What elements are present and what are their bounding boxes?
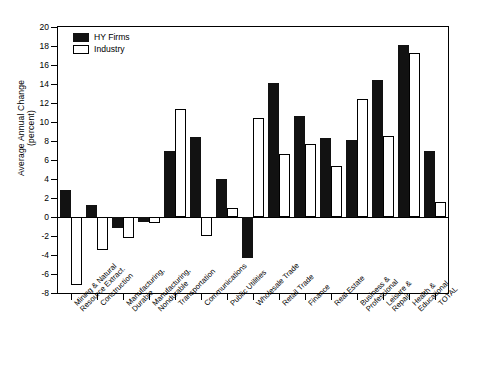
bar-hy-firms	[294, 116, 305, 217]
y-axis-tick	[51, 217, 57, 218]
y-axis-tick	[51, 179, 57, 180]
x-axis-tick	[201, 294, 202, 300]
x-axis-tick	[305, 294, 306, 300]
y-axis-tick-label: 10	[3, 118, 49, 127]
legend-swatch-hy-firms	[73, 33, 89, 42]
y-axis-tick-label: 2	[3, 194, 49, 203]
y-axis-tick-label: 12	[3, 99, 49, 108]
bar-industry	[97, 217, 108, 250]
x-axis-tick	[123, 294, 124, 300]
x-axis-tick	[383, 294, 384, 300]
bar-hy-firms	[216, 179, 227, 217]
legend-item-hy-firms: HY Firms	[73, 32, 130, 43]
bar-industry	[331, 166, 342, 217]
bar-hy-firms	[320, 138, 331, 217]
y-axis-tick	[51, 46, 57, 47]
y-axis-tick	[51, 122, 57, 123]
x-axis-tick	[331, 294, 332, 300]
y-axis-tick	[51, 84, 57, 85]
y-axis-tick-label: 16	[3, 61, 49, 70]
bar-hy-firms	[268, 83, 279, 217]
bar-chart: Average Annual Change (percent) 20181614…	[0, 0, 478, 370]
y-axis-tick	[51, 274, 57, 275]
y-axis-tick-label: 6	[3, 156, 49, 165]
bar-hy-firms	[60, 190, 71, 217]
x-axis-tick	[227, 294, 228, 300]
y-axis-tick-label: 14	[3, 80, 49, 89]
bar-industry	[435, 202, 446, 217]
y-axis-tick	[51, 141, 57, 142]
bar-industry	[279, 154, 290, 217]
legend-label-hy-firms: HY Firms	[94, 32, 130, 43]
y-axis-tick	[51, 160, 57, 161]
y-axis-tick-label: 8	[3, 137, 49, 146]
y-axis-tick-label: 4	[3, 175, 49, 184]
x-axis-tick	[409, 294, 410, 300]
y-axis-tick	[51, 198, 57, 199]
y-axis-tick-label: -2	[3, 232, 49, 241]
y-axis-tick	[51, 27, 57, 28]
y-axis-tick-label: 18	[3, 42, 49, 51]
y-axis-tick	[51, 103, 57, 104]
bar-hy-firms	[424, 151, 435, 217]
bar-industry	[175, 109, 186, 217]
bar-industry	[305, 144, 316, 217]
bar-hy-firms	[372, 80, 383, 217]
bar-industry	[123, 217, 134, 238]
x-axis-tick	[279, 294, 280, 300]
x-axis-tick	[71, 294, 72, 300]
x-axis-tick	[149, 294, 150, 300]
y-axis-tick-label: -6	[3, 270, 49, 279]
x-axis-tick	[357, 294, 358, 300]
y-axis-labels: 20181614121086420-2-4-6-8	[0, 0, 49, 370]
bar-industry	[409, 53, 420, 217]
bar-industry	[253, 118, 264, 217]
bar-hy-firms	[164, 151, 175, 218]
legend-swatch-industry	[73, 45, 89, 54]
bar-hy-firms	[346, 140, 357, 217]
x-axis-tick	[253, 294, 254, 300]
x-axis-tick	[97, 294, 98, 300]
bar-industry	[227, 208, 238, 217]
x-axis-tick	[435, 294, 436, 300]
bar-industry	[383, 136, 394, 217]
bar-hy-firms	[190, 137, 201, 217]
bar-industry	[71, 217, 82, 285]
bar-hy-firms	[112, 217, 123, 228]
bar-industry	[357, 99, 368, 217]
bar-hy-firms	[138, 217, 149, 222]
x-axis-tick	[175, 294, 176, 300]
y-axis-tick	[51, 65, 57, 66]
y-axis-tick-label: 0	[3, 213, 49, 222]
bar-hy-firms	[398, 45, 409, 217]
y-axis-tick	[51, 255, 57, 256]
y-axis-tick	[51, 236, 57, 237]
y-axis-tick-label: 20	[3, 23, 49, 32]
y-axis-tick	[51, 293, 57, 294]
bar-hy-firms	[86, 205, 97, 217]
y-axis-tick-label: -4	[3, 251, 49, 260]
legend-item-industry: Industry	[73, 44, 130, 55]
legend: HY Firms Industry	[73, 32, 130, 56]
legend-label-industry: Industry	[94, 44, 125, 55]
y-axis-tick-label: -8	[3, 289, 49, 298]
